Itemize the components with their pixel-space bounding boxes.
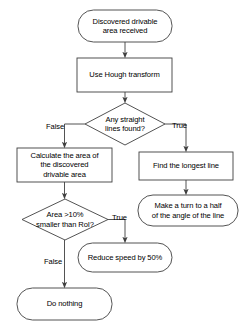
edge-label-lines-true: True [172, 121, 187, 130]
node-lines-decision-shape [85, 103, 165, 145]
node-reduce-speed-shape [78, 243, 172, 272]
node-do-nothing-shape [17, 288, 112, 320]
flowchart-graphics [0, 0, 242, 333]
edge-label-lines-false: False [46, 122, 64, 131]
node-area-decision-shape [22, 199, 108, 240]
edge-area-true-to-reduce-speed [108, 220, 125, 241]
edge-lines-false-to-calc-area [65, 124, 86, 145]
edge-label-area-true: True [112, 213, 127, 222]
edge-label-area-false: False [44, 257, 62, 266]
node-calc-area-shape [17, 148, 112, 182]
node-make-turn-shape [138, 195, 238, 226]
node-start-shape [78, 10, 172, 42]
node-find-line-shape [139, 152, 233, 180]
flowchart-canvas: Discovered drivable area received Use Ho… [0, 0, 242, 333]
node-hough-shape [77, 58, 172, 92]
